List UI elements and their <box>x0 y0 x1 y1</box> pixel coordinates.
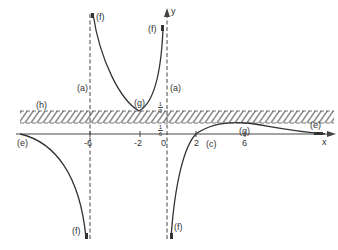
y-tick-one-sixth: 1 6 <box>158 124 163 137</box>
excluded-region-band <box>20 111 334 123</box>
function-curves <box>20 14 325 238</box>
label-c: (c) <box>206 140 217 149</box>
y-axis-arrow-icon <box>164 8 170 17</box>
x-axis-arrow-icon <box>327 131 336 137</box>
label-e-right: (e) <box>310 121 321 130</box>
tick-label-0: 0 <box>161 139 166 148</box>
label-f-bottom-right: (f) <box>174 223 183 232</box>
tick-label-minus-6: -6 <box>84 139 92 148</box>
curve-left-branch <box>20 134 86 238</box>
fraction-denominator: 3 <box>158 108 163 114</box>
label-e-left: (e) <box>17 139 28 148</box>
y-tick-one-third: 1 3 <box>158 101 163 114</box>
fraction-denominator: 6 <box>158 131 163 137</box>
label-a-left: (a) <box>77 84 88 93</box>
label-f-top-left: (f) <box>96 13 105 22</box>
label-h: (h) <box>36 101 47 110</box>
label-f-bottom-left: (f) <box>72 227 81 236</box>
y-axis-label: y <box>171 7 176 16</box>
label-f-top-right: (f) <box>148 25 157 34</box>
y-axis <box>164 8 170 240</box>
curve-end-markers <box>85 13 323 239</box>
tick-label-6: 6 <box>242 139 247 148</box>
label-a-right: (a) <box>170 84 181 93</box>
label-g-left: (g) <box>134 99 145 108</box>
tick-label-2: 2 <box>194 139 199 148</box>
x-axis <box>16 131 336 137</box>
tick-label-minus-2: -2 <box>134 139 142 148</box>
function-sketch <box>0 0 338 250</box>
x-axis-label: x <box>322 138 327 147</box>
label-g-right: (g) <box>239 127 250 136</box>
